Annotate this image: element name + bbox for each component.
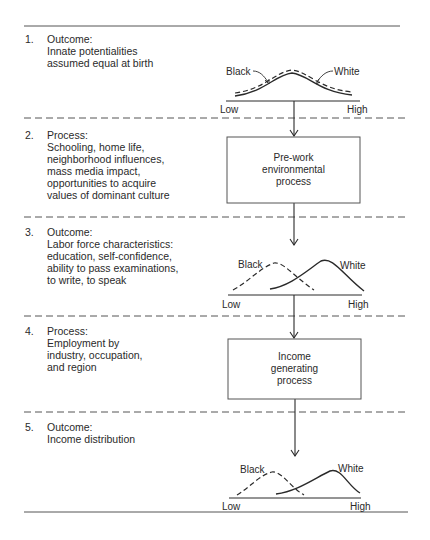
stage-2-line-2: neighborhood influences, [47, 153, 164, 165]
stage-5-number: 5. [25, 421, 34, 433]
stage-3-white-label: White [340, 260, 366, 271]
box-2-line-2: generating [228, 363, 361, 375]
stage-2-line-3: mass media impact, [47, 165, 140, 177]
stage-1-black-label: Black [226, 66, 250, 77]
stage-2-line-5: values of dominant culture [47, 189, 170, 201]
stage-3-line-4: to write, to speak [47, 274, 126, 286]
stage-1-low-label: Low [220, 104, 238, 115]
box-1-line-3: process [227, 176, 360, 188]
box-1-line-2: environmental [227, 164, 360, 176]
stage-5-black-label: Black [240, 464, 264, 475]
stage-2-type: Process: [47, 129, 88, 141]
stage-1-type: Outcome: [47, 33, 93, 45]
stage-3-number: 3. [25, 226, 34, 238]
stage-1-high-label: High [347, 104, 368, 115]
stage-5-white-label: White [338, 463, 364, 474]
stage-5-low-label: Low [222, 501, 240, 512]
black-curve [237, 472, 304, 495]
stage-4-line-1: Employment by [47, 337, 119, 349]
stage-3-low-label: Low [222, 299, 240, 310]
black-leader-arrow [265, 79, 269, 84]
stage-1-white-label: White [334, 66, 360, 77]
stage-2-number: 2. [25, 129, 34, 141]
stage-5-type: Outcome: [47, 421, 93, 433]
box-2-line-3: process [228, 375, 361, 387]
stage-3-black-label: Black [238, 259, 262, 270]
stage-5-high-label: High [350, 501, 371, 512]
stage-1-number: 1. [25, 33, 34, 45]
stage-3-line-3: ability to pass examinations, [47, 262, 178, 274]
stage-1-line-1: Innate potentialities [47, 45, 137, 57]
white-leader [317, 71, 333, 82]
stage-2-line-4: opportunities to acquire [47, 177, 156, 189]
stage-3-type: Outcome: [47, 226, 93, 238]
box-2-line-1: Income [228, 351, 361, 363]
stage-3-high-label: High [348, 299, 369, 310]
stage-5-line-1: Income distribution [47, 433, 135, 445]
box-1-line-1: Pre-work [227, 152, 360, 164]
stage-4-type: Process: [47, 325, 88, 337]
stage-3-line-2: education, self-confidence, [47, 250, 172, 262]
stage-2-line-1: Schooling, home life, [47, 141, 144, 153]
stage-3-line-1: Labor force characteristics: [47, 238, 173, 250]
stage-4-line-2: industry, occupation, [47, 349, 143, 361]
stage-4-line-3: and region [47, 361, 97, 373]
stage-1-line-2: assumed equal at birth [47, 57, 153, 69]
stage-4-number: 4. [25, 325, 34, 337]
